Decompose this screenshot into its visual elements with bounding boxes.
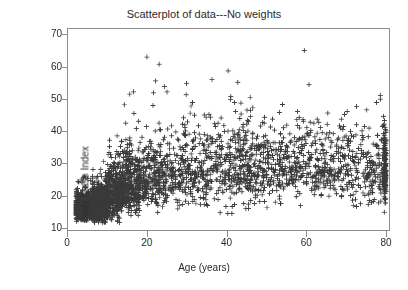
y-tick-text: 20 [36, 191, 62, 201]
x-tick-label-80: 80 [371, 238, 401, 248]
x-tick-label-20: 20 [132, 238, 162, 248]
y-tick-label-30: 30 [30, 158, 62, 168]
y-tick-label-20: 20 [30, 191, 62, 201]
y-tick-label-70: 70 [30, 29, 62, 39]
y-tick-mark [62, 196, 68, 197]
x-tick-label-40: 40 [212, 238, 242, 248]
chart-title: Scatterplot of data---No weights [0, 8, 408, 20]
y-tick-mark [62, 131, 68, 132]
x-tick-mark [147, 231, 148, 237]
x-tick-label-60: 60 [291, 238, 321, 248]
y-tick-mark [62, 34, 68, 35]
y-tick-text: 40 [36, 126, 62, 136]
plot-area [67, 28, 390, 231]
scatterplot-figure: Scatterplot of data---No weights 1020304… [0, 0, 408, 290]
y-tick-text: 50 [36, 94, 62, 104]
y-tick-label-60: 60 [30, 62, 62, 72]
y-tick-text: 70 [36, 29, 62, 39]
x-tick-mark [227, 231, 228, 237]
y-tick-mark [62, 163, 68, 164]
x-tick-mark [306, 231, 307, 237]
x-tick-mark [386, 231, 387, 237]
y-tick-text: 60 [36, 62, 62, 72]
y-tick-text: 10 [36, 223, 62, 233]
y-tick-mark [62, 99, 68, 100]
scatter-points-canvas [68, 29, 389, 230]
x-axis-title: Age (years) [0, 262, 408, 273]
y-tick-label-10: 10 [30, 223, 62, 233]
x-tick-label-0: 0 [52, 238, 82, 248]
y-tick-label-50: 50 [30, 94, 62, 104]
y-tick-label-40: 40 [30, 126, 62, 136]
y-axis-title: Body Mass Index [80, 115, 91, 255]
y-tick-mark [62, 228, 68, 229]
y-tick-text: 30 [36, 158, 62, 168]
y-tick-mark [62, 67, 68, 68]
x-tick-mark [67, 231, 68, 237]
